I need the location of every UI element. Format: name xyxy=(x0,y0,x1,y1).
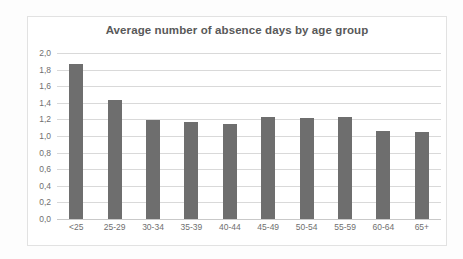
x-axis-tick-label: 55-59 xyxy=(326,222,364,232)
x-axis-tick-label: 25-29 xyxy=(95,222,133,232)
bar-slot xyxy=(95,53,133,219)
x-axis-tick-label: 35-39 xyxy=(172,222,210,232)
bar[interactable] xyxy=(108,100,122,219)
bar-slot xyxy=(211,53,249,219)
bar-slot xyxy=(172,53,210,219)
x-axis-tick-label: 65+ xyxy=(403,222,441,232)
bar-series xyxy=(57,53,441,219)
bar[interactable] xyxy=(146,120,160,219)
x-axis-tick-label: 45-49 xyxy=(249,222,287,232)
bar-slot xyxy=(249,53,287,219)
y-axis-tick-label: 0,0 xyxy=(39,214,51,224)
y-axis-tick-label: 2,0 xyxy=(39,48,51,58)
bar-slot xyxy=(287,53,325,219)
y-axis-tick-label: 0,2 xyxy=(39,197,51,207)
x-axis-tick-label: 60-64 xyxy=(364,222,402,232)
y-axis-tick-label: 0,4 xyxy=(39,181,51,191)
y-axis-tick-label: 0,8 xyxy=(39,148,51,158)
bar[interactable] xyxy=(300,118,314,219)
bar-slot xyxy=(403,53,441,219)
y-axis-tick-label: 0,6 xyxy=(39,164,51,174)
y-axis-tick-label: 1,0 xyxy=(39,131,51,141)
bar[interactable] xyxy=(338,117,352,219)
x-axis-tick-labels: <2525-2930-3435-3940-4445-4950-5455-5960… xyxy=(57,222,441,232)
x-axis-tick-label: 50-54 xyxy=(287,222,325,232)
plot-area: 2,01,81,61,41,21,00,80,60,40,20,0 xyxy=(57,53,441,219)
bar-slot xyxy=(134,53,172,219)
bar[interactable] xyxy=(184,122,198,219)
x-axis-tick-label: 40-44 xyxy=(211,222,249,232)
bar[interactable] xyxy=(223,124,237,219)
y-axis-tick-label: 1,2 xyxy=(39,114,51,124)
bar-slot xyxy=(364,53,402,219)
bar[interactable] xyxy=(376,131,390,219)
y-axis-tick-label: 1,4 xyxy=(39,98,51,108)
chart-card: Average number of absence days by age gr… xyxy=(27,16,447,246)
bar-slot xyxy=(326,53,364,219)
x-axis-tick-label: <25 xyxy=(57,222,95,232)
screenshot-root: Average number of absence days by age gr… xyxy=(0,0,463,259)
bar[interactable] xyxy=(415,132,429,219)
bar[interactable] xyxy=(261,117,275,219)
gridline xyxy=(57,219,441,220)
x-axis-tick-label: 30-34 xyxy=(134,222,172,232)
bar-slot xyxy=(57,53,95,219)
bar[interactable] xyxy=(69,64,83,219)
chart-title: Average number of absence days by age gr… xyxy=(28,24,446,36)
y-axis-tick-label: 1,8 xyxy=(39,65,51,75)
y-axis-tick-label: 1,6 xyxy=(39,81,51,91)
